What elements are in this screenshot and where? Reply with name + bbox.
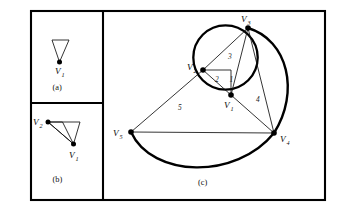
panel-b-content bbox=[46, 120, 81, 147]
panel-b-vertex-v2-dot bbox=[46, 120, 51, 125]
panel-c-label-v2-sub: 2 bbox=[193, 67, 196, 74]
panel-c-angle-label-4: 4 bbox=[256, 95, 260, 104]
panel-c-edge-v1-v3 bbox=[231, 28, 248, 95]
panel-a-vertex-v1-dot bbox=[57, 60, 62, 65]
panel-c-vertex-v1-dot bbox=[228, 92, 234, 98]
figure-container: V 1 (a) V 2 V 1 (b) V 3 V 2 V 1 V 4 V 5 … bbox=[0, 0, 342, 212]
panel-c-vertex-v2-dot bbox=[200, 67, 206, 73]
panel-b-caption: (b) bbox=[53, 175, 63, 184]
panel-c-vertex-v5-dot bbox=[128, 129, 134, 135]
panel-b-label-v2-sub: 2 bbox=[39, 122, 42, 129]
panel-c-content bbox=[128, 25, 288, 167]
panel-c-small-circle bbox=[193, 25, 257, 89]
panel-c-caption: (c) bbox=[198, 178, 208, 187]
panel-b-label-v1-sub: 1 bbox=[75, 155, 78, 162]
panel-a-label-v1-sub: 1 bbox=[61, 71, 64, 78]
panel-c-edge-v1-v4 bbox=[231, 95, 274, 133]
geometry-figure: V 1 (a) V 2 V 1 (b) V 3 V 2 V 1 V 4 V 5 … bbox=[0, 0, 342, 212]
panel-c-edge-v3-v4 bbox=[248, 28, 274, 133]
panel-c-angle-label-3: 3 bbox=[227, 52, 232, 61]
panel-b-vertex-v1-dot bbox=[71, 142, 76, 147]
panel-c-vertex-v4-dot bbox=[271, 130, 277, 136]
panel-c-edge-v2-v5 bbox=[131, 70, 203, 132]
panel-c-vertex-v3-dot bbox=[245, 25, 251, 31]
panel-a-content bbox=[52, 40, 69, 65]
panel-c-edge-v2-v3 bbox=[203, 28, 248, 70]
panel-c-arc-v5-v4 bbox=[131, 132, 274, 167]
panel-b-triangle-left bbox=[48, 122, 74, 144]
panel-c-angle-label-5: 5 bbox=[178, 103, 182, 112]
panel-c-edge-v5-v4 bbox=[131, 132, 274, 133]
panel-c-label-v4-sub: 4 bbox=[286, 139, 289, 146]
panel-a-triangle bbox=[52, 40, 69, 62]
panel-c-angle-label-2: 2 bbox=[215, 75, 219, 84]
panel-c-angle-label-1: 1 bbox=[230, 75, 234, 84]
panel-c-label-v3-sub: 3 bbox=[246, 19, 250, 26]
panel-a-caption: (a) bbox=[53, 83, 63, 92]
panel-c-label-v1-sub: 1 bbox=[230, 105, 233, 112]
panel-c-label-v5-sub: 5 bbox=[119, 133, 122, 140]
